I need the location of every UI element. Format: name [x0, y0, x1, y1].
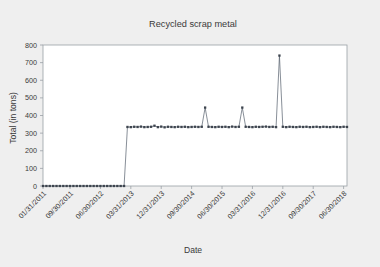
chart-figure: 0100200300400500600700800 01/31/201109/3…: [0, 0, 380, 267]
data-point-marker: [147, 126, 149, 128]
y-axis-title: Total (in tons): [8, 92, 18, 144]
data-point-marker: [255, 126, 257, 128]
data-point-marker: [214, 126, 216, 128]
data-point-marker: [329, 126, 331, 128]
data-point-marker: [123, 185, 125, 187]
data-point-marker: [302, 126, 304, 128]
data-point-marker: [45, 185, 47, 187]
data-point-marker: [194, 126, 196, 128]
data-point-marker: [272, 126, 274, 128]
data-point-marker: [336, 126, 338, 128]
data-point-marker: [245, 126, 247, 128]
data-point-marker: [346, 126, 348, 128]
data-point-marker: [86, 185, 88, 187]
data-point-marker: [207, 126, 209, 128]
data-point-marker: [326, 126, 328, 128]
data-point-marker: [265, 125, 267, 127]
y-tick-label: 0: [33, 182, 37, 191]
data-point-marker: [160, 125, 162, 127]
data-point-marker: [288, 126, 290, 128]
data-point-marker: [113, 185, 115, 187]
data-point-marker: [231, 125, 233, 127]
data-point-marker: [217, 126, 219, 128]
data-point-marker: [241, 106, 243, 108]
data-point-marker: [305, 126, 307, 128]
y-tick-label: 800: [25, 41, 37, 50]
data-point-marker: [79, 185, 81, 187]
data-point-marker: [234, 126, 236, 128]
data-point-marker: [342, 126, 344, 128]
data-point-marker: [130, 126, 132, 128]
y-tick-label: 500: [25, 93, 37, 102]
data-point-marker: [116, 185, 118, 187]
data-point-marker: [157, 126, 159, 128]
data-point-marker: [49, 185, 51, 187]
data-point-marker: [322, 126, 324, 128]
data-point-marker: [238, 126, 240, 128]
data-point-marker: [103, 185, 105, 187]
data-point-marker: [76, 185, 78, 187]
data-point-marker: [133, 126, 135, 128]
data-point-marker: [65, 185, 67, 187]
data-point-marker: [187, 126, 189, 128]
data-point-marker: [309, 126, 311, 128]
data-point-marker: [275, 126, 277, 128]
data-point-marker: [153, 125, 155, 127]
data-point-marker: [167, 126, 169, 128]
data-point-marker: [59, 185, 61, 187]
data-point-marker: [221, 126, 223, 128]
data-point-marker: [285, 126, 287, 128]
data-point-marker: [248, 126, 250, 128]
data-point-marker: [150, 126, 152, 128]
data-point-marker: [312, 126, 314, 128]
data-point-marker: [258, 126, 260, 128]
data-point-marker: [211, 126, 213, 128]
y-tick-label: 700: [25, 58, 37, 67]
data-point-marker: [339, 126, 341, 128]
data-point-marker: [99, 185, 101, 187]
data-point-marker: [106, 185, 108, 187]
y-tick-label: 200: [25, 146, 37, 155]
data-point-marker: [120, 185, 122, 187]
x-axis-title: Date: [184, 245, 202, 255]
data-point-marker: [292, 126, 294, 128]
data-point-marker: [190, 126, 192, 128]
data-point-marker: [204, 106, 206, 108]
data-point-marker: [163, 126, 165, 128]
data-point-marker: [295, 126, 297, 128]
data-point-marker: [177, 126, 179, 128]
y-tick-label: 600: [25, 76, 37, 85]
chart-title: Recycled scrap metal: [149, 19, 237, 29]
data-point-marker: [319, 126, 321, 128]
data-point-marker: [184, 126, 186, 128]
data-point-marker: [201, 126, 203, 128]
data-point-marker: [96, 185, 98, 187]
data-point-marker: [82, 185, 84, 187]
data-point-marker: [143, 126, 145, 128]
data-point-marker: [228, 126, 230, 128]
data-point-marker: [268, 126, 270, 128]
data-point-marker: [126, 126, 128, 128]
data-point-marker: [109, 185, 111, 187]
data-point-marker: [299, 126, 301, 128]
data-point-marker: [69, 185, 71, 187]
data-point-marker: [42, 185, 44, 187]
data-point-marker: [62, 185, 64, 187]
data-point-marker: [315, 126, 317, 128]
data-point-marker: [136, 126, 138, 128]
data-point-marker: [52, 185, 54, 187]
data-point-marker: [55, 185, 57, 187]
data-point-marker: [89, 185, 91, 187]
data-point-marker: [251, 126, 253, 128]
data-point-marker: [332, 126, 334, 128]
data-point-marker: [261, 126, 263, 128]
data-point-marker: [140, 125, 142, 127]
data-point-marker: [197, 126, 199, 128]
data-point-marker: [224, 126, 226, 128]
data-point-marker: [72, 185, 74, 187]
data-point-marker: [170, 126, 172, 128]
chart-canvas: 0100200300400500600700800 01/31/201109/3…: [0, 0, 380, 267]
y-tick-label: 100: [25, 164, 37, 173]
data-point-marker: [180, 126, 182, 128]
data-point-marker: [174, 126, 176, 128]
